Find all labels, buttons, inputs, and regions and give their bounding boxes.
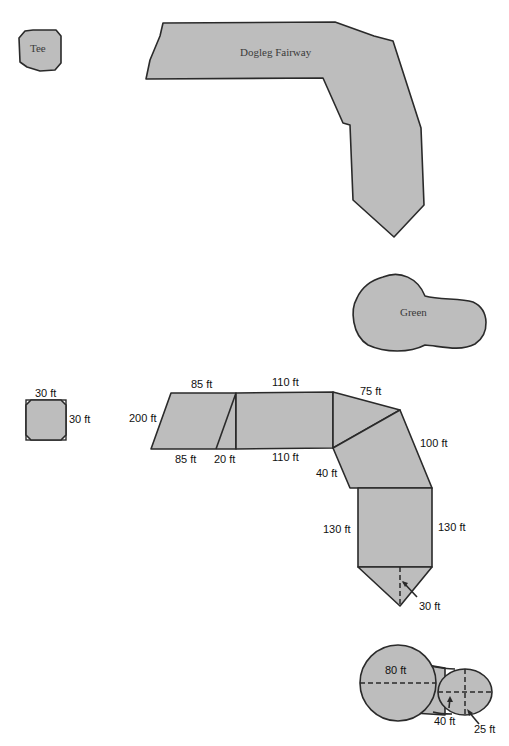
dim-bottom-mid: 110 ft (272, 451, 299, 463)
green-shape: Green (353, 274, 486, 351)
dim-big-circle: 80 ft (385, 664, 406, 676)
fairway-model: 85 ft 200 ft 85 ft 20 ft 110 ft 110 ft 7… (129, 376, 466, 612)
golf-course-diagram: Tee Dogleg Fairway Green 30 ft 30 ft (0, 0, 509, 746)
tee-side-dimension: 30 ft (69, 413, 90, 425)
dogleg-fairway-shape: Dogleg Fairway (146, 22, 424, 237)
dim-top-left: 85 ft (191, 378, 212, 390)
tee-top-dimension: 30 ft (35, 387, 56, 399)
tee-model: 30 ft 30 ft (26, 387, 90, 440)
dim-bottom-left: 85 ft (175, 453, 196, 465)
dim-corner-top: 75 ft (360, 385, 381, 397)
tee-label: Tee (30, 42, 46, 54)
dim-bottom-triangle: 20 ft (214, 453, 235, 465)
dim-ellipse-height: 25 ft (474, 723, 495, 735)
green-label: Green (400, 306, 427, 318)
dim-corner-right: 100 ft (420, 437, 448, 449)
dim-lower-right: 130 ft (438, 521, 466, 533)
dim-top-mid: 110 ft (272, 376, 299, 388)
dim-ellipse-width: 40 ft (434, 715, 455, 727)
fairway-label: Dogleg Fairway (240, 46, 312, 58)
dim-tip-height: 30 ft (419, 600, 440, 612)
green-model: 80 ft 40 ft 25 ft (360, 645, 495, 735)
dim-left-slant: 200 ft (129, 412, 157, 424)
dim-lower-left: 130 ft (323, 523, 351, 535)
dim-corner-inner: 40 ft (316, 467, 337, 479)
tee-shape: Tee (19, 30, 61, 71)
